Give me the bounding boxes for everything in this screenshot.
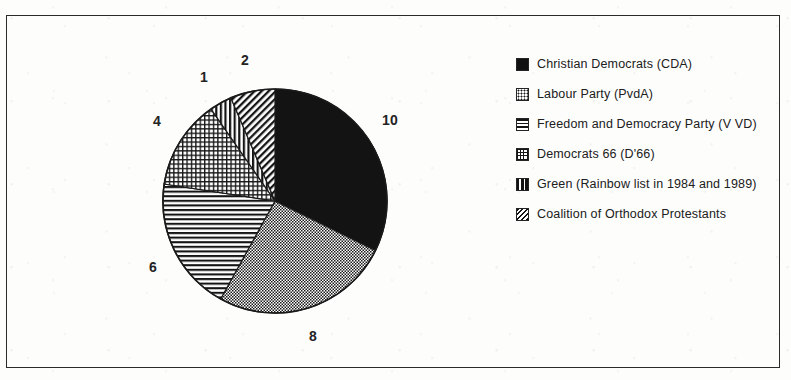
- pie-value-label-6: 6: [149, 259, 157, 275]
- legend-label: Christian Democrats (CDA): [537, 56, 692, 72]
- chart-legend: Christian Democrats (CDA) Labour Party (…: [516, 56, 778, 236]
- legend-item-green: Green (Rainbow list in 1984 and 1989): [516, 176, 778, 192]
- legend-item-democrats-66: Democrats 66 (D'66): [516, 146, 778, 162]
- pie-value-label-4: 4: [153, 113, 161, 129]
- legend-label: Green (Rainbow list in 1984 and 1989): [537, 176, 757, 192]
- legend-item-christian-democrats: Christian Democrats (CDA): [516, 56, 778, 72]
- legend-label: Democrats 66 (D'66): [537, 146, 655, 162]
- pie-chart: [160, 71, 390, 316]
- legend-label: Coalition of Orthodox Protestants: [537, 206, 726, 222]
- scanned-page: 10 8 6 4 1 2 Christian Democrats (CDA) L…: [0, 0, 791, 380]
- pie-value-label-1: 1: [200, 69, 208, 85]
- legend-item-labour-party: Labour Party (PvdA): [516, 86, 778, 102]
- pie-value-label-8: 8: [309, 328, 317, 344]
- vertical-lines-swatch-icon: [516, 178, 529, 191]
- solid-black-swatch-icon: [516, 58, 529, 71]
- diagonal-lines-swatch-icon: [516, 208, 529, 221]
- pie-chart-svg: [160, 71, 390, 316]
- horizontal-lines-swatch-icon: [516, 118, 529, 131]
- cross-hatch-grid-swatch-icon: [516, 148, 529, 161]
- legend-item-freedom-and-democracy-party: Freedom and Democracy Party (V VD): [516, 116, 778, 132]
- pie-value-label-10: 10: [382, 112, 398, 128]
- legend-label: Freedom and Democracy Party (V VD): [537, 116, 757, 132]
- legend-item-coalition-orthodox-protestants: Coalition of Orthodox Protestants: [516, 206, 778, 222]
- legend-label: Labour Party (PvdA): [537, 86, 653, 102]
- pie-value-label-2: 2: [241, 52, 249, 68]
- fine-dots-swatch-icon: [516, 88, 529, 101]
- chart-frame-border: 10 8 6 4 1 2 Christian Democrats (CDA) L…: [6, 15, 780, 368]
